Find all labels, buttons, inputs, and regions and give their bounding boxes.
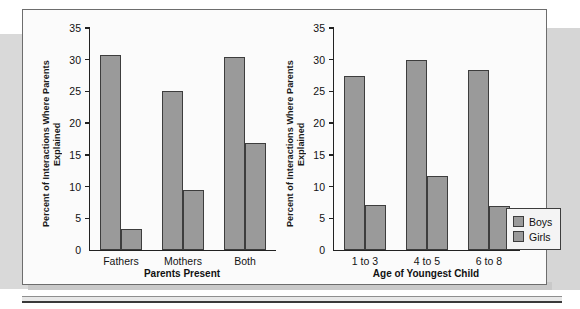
y-tick-label: 25 bbox=[313, 85, 329, 97]
y-tick-label: 20 bbox=[313, 117, 329, 129]
bar-group: 4 to 5 bbox=[396, 28, 458, 250]
bar-boys-4-to-5[interactable] bbox=[406, 60, 427, 250]
y-tick-label: 10 bbox=[69, 180, 85, 192]
x-tick-label: 1 to 3 bbox=[334, 255, 396, 267]
figure-panel: Percent of Interactions Where Parents Ex… bbox=[22, 9, 547, 285]
bar-boys-6-to-8[interactable] bbox=[468, 70, 489, 250]
y-tick-label: 10 bbox=[313, 180, 329, 192]
legend-item-girls[interactable]: Girls bbox=[513, 229, 552, 244]
y-tick-label: 20 bbox=[69, 117, 85, 129]
bar-boys-both[interactable] bbox=[224, 57, 245, 250]
y-axis-label-right: Percent of Interactions Where Parents Ex… bbox=[285, 46, 309, 242]
legend-swatch-icon bbox=[513, 216, 524, 227]
bar-girls-both[interactable] bbox=[245, 143, 266, 250]
legend-label: Girls bbox=[529, 231, 551, 243]
legend-label: Boys bbox=[529, 216, 552, 228]
y-tick-label: 5 bbox=[319, 212, 329, 224]
chart-legend: BoysGirls bbox=[506, 208, 561, 250]
legend-swatch-icon bbox=[513, 231, 524, 242]
x-axis-label-right: Age of Youngest Child bbox=[333, 268, 519, 279]
x-axis-label-left: Parents Present bbox=[89, 268, 275, 279]
bar-boys-mothers[interactable] bbox=[162, 91, 183, 250]
bar-boys-1-to-3[interactable] bbox=[344, 76, 365, 250]
y-tick-label: 35 bbox=[313, 22, 329, 34]
bar-girls-4-to-5[interactable] bbox=[427, 176, 448, 250]
x-tick-label: Mothers bbox=[152, 255, 214, 267]
bar-group-container-left: FathersMothersBoth bbox=[90, 28, 276, 250]
bar-group: Mothers bbox=[152, 28, 214, 250]
y-tick-label: 35 bbox=[69, 22, 85, 34]
y-tick-label: 30 bbox=[313, 53, 329, 65]
y-tick-label: 15 bbox=[313, 148, 329, 160]
bar-group: Both bbox=[214, 28, 276, 250]
y-tick-label: 0 bbox=[75, 244, 85, 256]
bar-girls-fathers[interactable] bbox=[121, 229, 142, 250]
bar-boys-fathers[interactable] bbox=[100, 55, 121, 250]
x-tick-label: 4 to 5 bbox=[396, 255, 458, 267]
bar-group: 1 to 3 bbox=[334, 28, 396, 250]
x-tick-label: Fathers bbox=[90, 255, 152, 267]
legend-item-boys[interactable]: Boys bbox=[513, 214, 552, 229]
y-axis-label-left: Percent of Interactions Where Parents Ex… bbox=[41, 46, 65, 242]
bar-group-container-right: 1 to 34 to 56 to 8 bbox=[334, 28, 520, 250]
y-tick-label: 5 bbox=[75, 212, 85, 224]
y-tick-label: 0 bbox=[319, 244, 329, 256]
plot-area-left: 05101520253035 FathersMothersBoth bbox=[89, 28, 276, 251]
x-tick-label: Both bbox=[214, 255, 276, 267]
bar-group: Fathers bbox=[90, 28, 152, 250]
y-tick-label: 30 bbox=[69, 53, 85, 65]
bar-girls-1-to-3[interactable] bbox=[365, 205, 386, 250]
y-tick-label: 25 bbox=[69, 85, 85, 97]
x-tick-label: 6 to 8 bbox=[458, 255, 520, 267]
y-tick-label: 15 bbox=[69, 148, 85, 160]
page-shadow-right bbox=[546, 28, 580, 290]
page-bottom-rule bbox=[22, 296, 562, 303]
plot-area-right: 05101520253035 1 to 34 to 56 to 8 bbox=[333, 28, 520, 251]
chart-parents-present: Percent of Interactions Where Parents Ex… bbox=[23, 10, 285, 286]
bar-girls-mothers[interactable] bbox=[183, 190, 204, 250]
